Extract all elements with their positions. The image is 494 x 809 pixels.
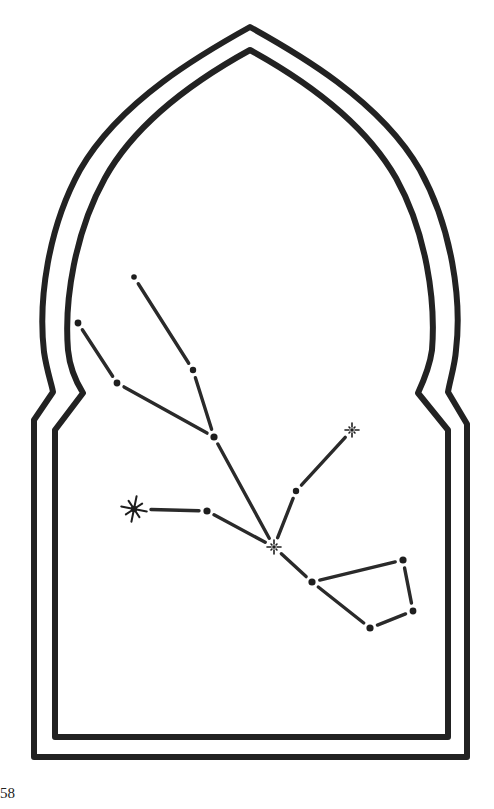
star-dot (410, 608, 417, 615)
star-dot (366, 624, 373, 631)
page-number: 58 (0, 786, 15, 801)
constellation-stars (75, 274, 417, 631)
star-dot (75, 320, 82, 327)
star-dot (190, 367, 196, 373)
outer-arch-frame (34, 27, 467, 757)
constellation-line (281, 554, 306, 577)
star-dot (308, 578, 315, 585)
bright-star-icon (121, 496, 146, 521)
small-star-icon (267, 540, 281, 554)
constellation-line (195, 378, 211, 430)
constellation-line (124, 387, 207, 433)
constellation-line (218, 444, 269, 538)
constellation-line (151, 509, 199, 510)
star-dot (210, 433, 217, 440)
constellation-line (138, 284, 188, 363)
star-dot (399, 556, 406, 563)
constellation-line (278, 498, 293, 537)
constellation-line (82, 330, 112, 377)
constellation-line (377, 614, 405, 625)
constellation-line (405, 568, 412, 603)
constellation-illustration (0, 0, 494, 809)
constellation-line (320, 562, 395, 580)
star-dot (114, 380, 121, 387)
star-dot (203, 507, 210, 514)
small-star-icon (345, 423, 359, 437)
star-dot (131, 274, 137, 280)
constellation-line (318, 587, 363, 623)
inner-arch-frame (55, 50, 448, 737)
constellation-lines (82, 284, 411, 625)
star-dot (293, 488, 299, 494)
constellation-line (301, 437, 345, 485)
